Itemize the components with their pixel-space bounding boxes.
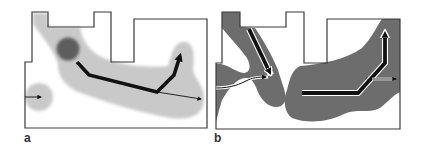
dark-spot	[57, 38, 80, 61]
panel-a	[25, 12, 207, 128]
panel-label-a: a	[24, 131, 31, 145]
panel-b	[216, 12, 400, 129]
panel-label-b: b	[214, 131, 221, 145]
figure-canvas	[0, 0, 422, 156]
